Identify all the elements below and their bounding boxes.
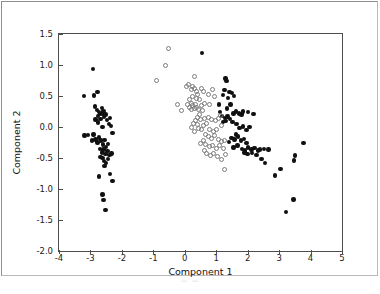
- scatter-point-filled: [90, 138, 94, 142]
- scatter-point-filled: [106, 157, 110, 161]
- scatter-point-filled: [93, 117, 97, 121]
- y-axis-tick: [59, 34, 63, 35]
- y-axis-label-text: Component 2: [11, 110, 22, 174]
- scatter-point-filled: [231, 145, 235, 149]
- scatter-point-open: [175, 102, 180, 107]
- scatter-point-filled: [100, 125, 104, 129]
- scatter-point-filled: [109, 151, 113, 155]
- scatter-point-filled: [222, 88, 226, 92]
- scatter-point-filled: [109, 124, 113, 128]
- scatter-point-filled: [235, 143, 239, 147]
- scatter-point-filled: [106, 142, 110, 146]
- y-axis-tick: [59, 65, 63, 66]
- scatter-point-filled: [82, 94, 86, 98]
- scatter-point-open: [197, 97, 202, 102]
- y-axis-tick: [59, 96, 63, 97]
- x-axis-tick-label: 4: [308, 254, 313, 263]
- x-axis-tick-label: 0: [182, 254, 187, 263]
- scatter-point-filled: [103, 208, 107, 212]
- scatter-point-filled: [86, 133, 90, 137]
- scatter-point-filled: [98, 147, 102, 151]
- scatter-point-filled: [217, 102, 221, 106]
- scatter-point-open: [163, 63, 168, 68]
- scatter-point-filled: [200, 51, 204, 55]
- scatter-point-filled: [284, 210, 288, 214]
- scatter-point-open: [154, 78, 159, 83]
- scatter-point-filled: [242, 150, 246, 154]
- scatter-point-open: [166, 46, 171, 51]
- scatter-point-filled: [251, 112, 255, 116]
- figure-outer-frame: -4-3-2-1012345-2.0-1.5-1.0-0.50.00.51.01…: [1, 1, 378, 276]
- scatter-point-filled: [278, 167, 282, 171]
- y-axis-tick-label: 1.0: [39, 61, 53, 70]
- scatter-point-filled: [102, 164, 106, 168]
- y-axis-tick-label: 0.0: [39, 123, 53, 132]
- scatter-point-filled: [291, 197, 295, 201]
- scatter-point-filled: [232, 94, 236, 98]
- y-axis-tick-label: 0.5: [39, 92, 53, 101]
- scatter-point-open: [202, 148, 207, 153]
- scatter-point-filled: [91, 67, 95, 71]
- scatter-point-filled: [221, 93, 225, 97]
- scatter-point-open: [206, 92, 211, 97]
- scatter-point-filled: [108, 116, 112, 120]
- scatter-point-open: [222, 167, 227, 172]
- scatter-point-filled: [266, 147, 270, 151]
- y-axis-tick-label: -1.5: [36, 216, 53, 225]
- scatter-point-open: [207, 102, 212, 107]
- scatter-point-open: [179, 108, 184, 113]
- scatter-point-filled: [225, 106, 229, 110]
- scatter-point-filled: [241, 109, 245, 113]
- scatter-point-filled: [100, 106, 104, 110]
- x-axis-tick-label: 1: [214, 254, 219, 263]
- x-axis-tick-label: 3: [276, 254, 281, 263]
- scatter-point-filled: [254, 153, 258, 157]
- scatter-point-filled: [273, 173, 277, 177]
- scatter-point-filled: [95, 90, 99, 94]
- scatter-plot-area: -4-3-2-1012345-2.0-1.5-1.0-0.50.00.51.01…: [58, 33, 343, 252]
- scatter-point-filled: [227, 140, 231, 144]
- y-axis-tick: [59, 251, 63, 252]
- scatter-point-filled: [301, 141, 305, 145]
- scatter-point-filled: [103, 112, 107, 116]
- x-axis-tick-label: 2: [245, 254, 250, 263]
- scatter-point-open: [219, 157, 224, 162]
- y-axis-tick: [59, 189, 63, 190]
- scatter-point-filled: [110, 131, 114, 135]
- scatter-point-filled: [97, 174, 101, 178]
- scatter-point-filled: [292, 158, 296, 162]
- y-axis-tick-label: -2.0: [36, 247, 53, 256]
- scatter-point-open: [212, 94, 217, 99]
- figure-root: -4-3-2-1012345-2.0-1.5-1.0-0.50.00.51.01…: [0, 0, 380, 294]
- scatter-point-open: [214, 127, 219, 132]
- scatter-point-open: [192, 74, 197, 79]
- scatter-point-filled: [98, 155, 102, 159]
- y-axis-tick: [59, 158, 63, 159]
- scatter-point-filled: [100, 192, 104, 196]
- scatter-point-filled: [108, 172, 112, 176]
- scatter-point-filled: [110, 179, 114, 183]
- scatter-point-open: [222, 138, 227, 143]
- scatter-point-filled: [247, 125, 251, 129]
- scatter-point-open: [210, 87, 215, 92]
- scatter-point-filled: [226, 96, 230, 100]
- scatter-point-open: [219, 123, 224, 128]
- y-axis-tick: [59, 220, 63, 221]
- x-axis-tick-label: -4: [55, 254, 63, 263]
- scatter-point-filled: [224, 79, 228, 83]
- scatter-point-filled: [101, 198, 105, 202]
- y-axis-tick-label: -1.0: [36, 185, 53, 194]
- scatter-point-open: [223, 152, 228, 157]
- caption-artifact: — —: [0, 278, 380, 285]
- x-axis-tick-label: 5: [339, 254, 344, 263]
- y-axis-tick-label: -0.5: [36, 154, 53, 163]
- scatter-point-filled: [263, 161, 267, 165]
- x-axis-label: Component 1: [58, 267, 343, 277]
- scatter-point-filled: [91, 132, 95, 136]
- scatter-point-filled: [246, 110, 250, 114]
- x-axis-tick-label: -2: [118, 254, 126, 263]
- y-axis-label: Component 2: [10, 33, 22, 252]
- x-axis-tick-label: -1: [149, 254, 157, 263]
- y-axis-tick-label: 1.5: [39, 30, 53, 39]
- x-axis-tick-label: -3: [86, 254, 94, 263]
